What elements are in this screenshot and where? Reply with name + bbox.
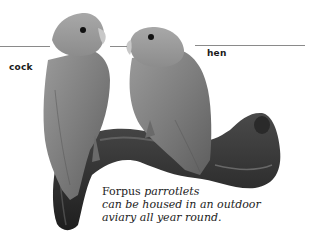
cock-leader-line-segment xyxy=(110,46,127,47)
caption-common-name: parrotlets xyxy=(141,185,200,198)
caption-line-3: aviary all year round. xyxy=(102,211,302,224)
caption-line-1: Forpus parrotlets xyxy=(102,185,302,198)
cock-leader-line xyxy=(0,46,50,47)
cock-label: cock xyxy=(9,62,33,72)
caption-genus: Forpus xyxy=(102,185,141,198)
figure-page: cock hen Forpus parrotlets can be housed… xyxy=(0,0,309,240)
figure-caption: Forpus parrotlets can be housed in an ou… xyxy=(102,185,302,224)
cock-bird xyxy=(44,13,110,200)
hen-label: hen xyxy=(207,48,227,58)
caption-line-2: can be housed in an outdoor xyxy=(102,198,302,211)
hen-leader-line xyxy=(195,45,305,46)
